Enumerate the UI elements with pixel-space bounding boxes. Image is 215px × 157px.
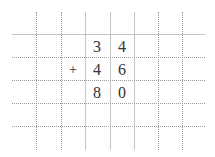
addend1-tens: 3 <box>85 35 109 58</box>
grid-vline <box>182 12 183 150</box>
addend2-ones: 6 <box>110 58 134 81</box>
grid-vline <box>134 12 135 150</box>
sum-ones: 0 <box>110 81 134 104</box>
grid-vline <box>61 12 62 150</box>
sum-tens: 8 <box>85 81 109 104</box>
grid-hline <box>12 126 205 127</box>
addend1-ones: 4 <box>110 35 134 58</box>
plus-operator: + <box>61 58 85 81</box>
addend2-tens: 4 <box>85 58 109 81</box>
grid-vline <box>158 12 159 150</box>
grid-vline <box>36 12 37 150</box>
